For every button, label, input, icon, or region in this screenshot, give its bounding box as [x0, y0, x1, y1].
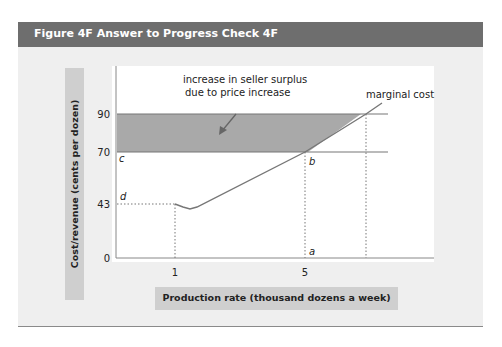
point-d: d: [120, 191, 127, 202]
x-axis-label: Production rate (thousand dozens a week): [155, 292, 398, 303]
x-tick-5: 5: [302, 267, 308, 278]
y-tick-70: 70: [97, 147, 110, 158]
x-tick-1: 1: [172, 267, 178, 278]
x-axis-label-bar: Production rate (thousand dozens a week): [155, 287, 398, 310]
bottom-rule: [18, 326, 483, 327]
y-tick-43: 43: [97, 199, 110, 210]
y-tick-90: 90: [97, 109, 110, 120]
annotation-line-1: increase in seller surplus: [183, 74, 307, 85]
point-b: b: [309, 156, 315, 167]
point-a: a: [309, 246, 315, 257]
point-c: c: [119, 153, 125, 164]
y-tick-0: 0: [104, 253, 110, 264]
annotation-line-2: due to price increase: [185, 87, 290, 98]
marginal-cost-label: marginal cost: [366, 89, 434, 100]
